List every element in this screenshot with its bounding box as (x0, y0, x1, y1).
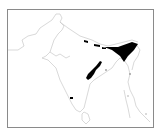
country-outlines (8, 14, 150, 124)
eastern-ghats-shape (86, 61, 102, 80)
distribution-areas (70, 40, 138, 99)
southern-point (70, 97, 73, 99)
foothill-patch-1 (84, 40, 88, 43)
foothill-patch-2 (94, 44, 100, 47)
northeast-range-shape (104, 42, 138, 62)
map-canvas (0, 0, 161, 137)
small-markers (105, 69, 147, 115)
